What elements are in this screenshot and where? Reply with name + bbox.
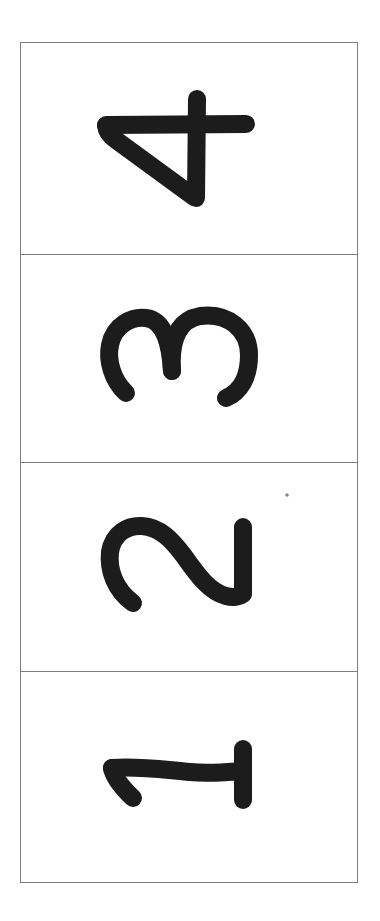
- panel-digit-3: Digit 3: [21, 254, 357, 462]
- digit-card-strip: Digit 4 Digit 3 Digit 2 Digit 1: [20, 42, 358, 883]
- panel-digit-2-label: Digit 2: [21, 463, 22, 464]
- panel-digit-4: Digit 4: [21, 43, 357, 254]
- panel-digit-1-label: Digit 1: [21, 672, 22, 673]
- panel-digit-1: Digit 1: [21, 671, 357, 882]
- panel-digit-2: Digit 2: [21, 462, 357, 671]
- panel-digit-3-label: Digit 3: [21, 255, 22, 256]
- panel-digit-4-label: Digit 4: [21, 43, 22, 44]
